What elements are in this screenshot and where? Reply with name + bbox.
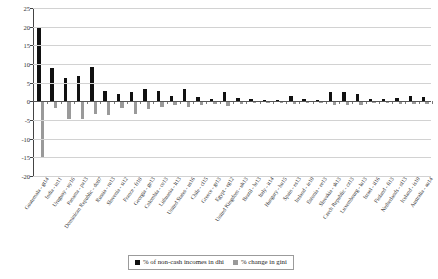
bar xyxy=(50,68,53,101)
bar xyxy=(77,76,80,101)
legend-swatch-icon xyxy=(233,260,238,265)
bar xyxy=(223,92,226,102)
y-axis-tick-mark xyxy=(30,45,33,46)
legend-item-gini-change: % change in gini xyxy=(233,258,287,266)
y-axis-tick-mark xyxy=(30,64,33,65)
y-axis-tick-mark xyxy=(30,139,33,140)
bar xyxy=(67,101,70,119)
gridline xyxy=(33,45,431,46)
bar xyxy=(103,91,106,101)
chart-legend: % of non-cash incomes in dhi % change in… xyxy=(128,255,294,270)
bar-chart: 2520151050-5-10-15-20 Guatemala - gt14In… xyxy=(0,0,438,279)
gridline xyxy=(33,27,431,28)
y-axis-tick-label: -20 xyxy=(4,173,30,180)
y-axis-tick-label: -5 xyxy=(4,117,30,124)
y-axis-tick-mark xyxy=(30,27,33,28)
gridline xyxy=(33,8,431,9)
bar xyxy=(64,78,67,101)
bar xyxy=(90,67,93,102)
bar xyxy=(130,92,133,101)
bar xyxy=(356,94,359,101)
bar xyxy=(81,101,84,119)
y-axis-tick-mark xyxy=(30,83,33,84)
y-axis-tick-label: -15 xyxy=(4,154,30,161)
y-axis-tick-mark xyxy=(30,157,33,158)
legend-swatch-icon xyxy=(135,260,140,265)
x-axis-tick-mark xyxy=(432,101,433,104)
y-axis-tick-mark xyxy=(30,120,33,121)
x-axis-tick-labels: Guatemala - gt14India - in11Uruguay - uy… xyxy=(34,176,438,248)
bar xyxy=(41,101,44,158)
gridline xyxy=(33,120,431,121)
bar xyxy=(120,101,123,108)
gridline xyxy=(33,64,431,65)
y-axis-tick-label: -10 xyxy=(4,135,30,142)
bar xyxy=(94,101,97,114)
bar xyxy=(54,101,57,108)
y-axis-tick-label: 15 xyxy=(4,42,30,49)
bar xyxy=(117,94,120,101)
y-axis-tick-label: 0 xyxy=(4,98,30,105)
gridline xyxy=(33,139,431,140)
bar xyxy=(342,92,345,101)
bar xyxy=(183,89,186,101)
bar xyxy=(134,101,137,113)
bar xyxy=(329,92,332,102)
legend-item-non-cash-incomes: % of non-cash incomes in dhi xyxy=(135,258,224,266)
zero-axis-line xyxy=(33,101,431,102)
bar xyxy=(147,101,150,109)
y-axis-tick-label: 5 xyxy=(4,79,30,86)
y-axis-tick-label: 25 xyxy=(4,5,30,12)
gridline xyxy=(33,83,431,84)
legend-label: % of non-cash incomes in dhi xyxy=(143,258,224,266)
bar xyxy=(157,91,160,102)
y-axis-tick-label: 20 xyxy=(4,23,30,30)
legend-label: % change in gini xyxy=(241,258,287,266)
y-axis-tick-label: 10 xyxy=(4,61,30,68)
y-axis-tick-mark xyxy=(30,8,33,9)
bar xyxy=(143,89,146,101)
bar xyxy=(107,101,110,114)
y-axis-tick-labels: 2520151050-5-10-15-20 xyxy=(2,8,30,176)
y-axis-tick-mark xyxy=(30,176,33,177)
